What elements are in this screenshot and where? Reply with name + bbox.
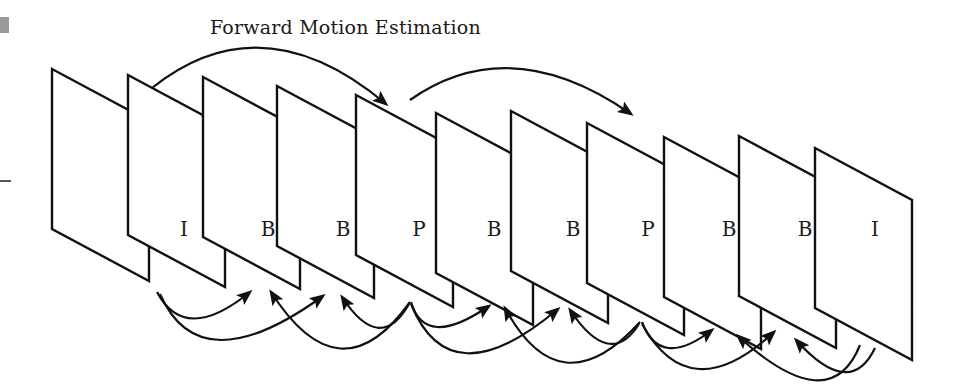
frame-type-label: B [336,217,351,241]
diagram-title: Forward Motion Estimation [210,16,481,38]
frame-type-label: P [412,217,425,241]
frame-type-label: I [180,217,188,241]
prediction-arrow-icon [342,297,409,328]
prediction-arrow-icon [411,304,558,353]
diagram-canvas [0,0,955,390]
frame-type-label: B [487,217,502,241]
prediction-arrow-icon [271,292,410,349]
forward-arrow-icon [410,68,631,114]
frame-type-label: I [871,217,879,241]
gop-diagram: Forward Motion Estimation IBBPBBPBBI [0,0,955,390]
frame-type-label: B [566,217,581,241]
frame-type-label: P [641,217,654,241]
forward-arrow-icon [152,48,386,104]
frame-type-label: B [798,217,813,241]
frame-type-label: B [722,217,737,241]
frame-type-label: B [261,217,276,241]
